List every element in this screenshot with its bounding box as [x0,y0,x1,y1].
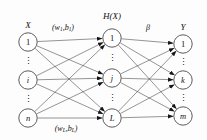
edge-hidden-output [119,51,177,111]
edge-hidden-output [120,85,174,114]
hidden-ellipsis-icon: ⋮ [108,53,117,63]
input-node-label: 1 [26,37,30,47]
output-layer-title: Y [180,22,186,32]
output-layer-nodes: 1km [174,35,192,125]
output-node-label: m [180,111,186,121]
input-node-label: n [26,113,30,123]
input-layer-nodes: 1in [19,33,37,127]
edges-hidden-to-output [118,39,176,118]
edge-input-hidden [35,48,105,111]
input-ellipsis-icon: ⋮ [24,94,33,104]
edge-hidden-output [122,78,174,79]
input-layer-title: X [24,20,31,30]
edge-input-hidden [38,38,103,41]
hidden-layer-nodes: 1jL [103,29,121,127]
edge-input-hidden [37,82,103,114]
output-node-label: 1 [181,39,185,49]
edges-input-to-hidden [35,38,105,118]
input-hidden-weight-last: (wL,bL) [55,124,78,133]
output-ellipsis-icon: ⋮ [179,93,188,103]
input-hidden-weight-first: (w1,b1) [52,23,74,32]
input-ellipsis-icon: ⋮ [24,56,33,66]
hidden-node-label: 1 [110,33,114,43]
parameter-annotations: (w1,b1)(wL,bL)β [52,23,150,133]
edge-hidden-output [122,39,174,43]
edge-hidden-output [122,116,174,117]
edge-input-hidden [37,46,103,74]
hidden-ellipsis-icon: ⋮ [108,93,117,103]
hidden-output-weight-beta: β [145,23,150,32]
edge-hidden-output [120,83,174,112]
elm-network-diagram: 1in 1jL 1km ⋮⋮⋮⋮⋮⋮ X H(X) Y (w1,b1)(wL,b… [0,0,207,140]
output-ellipsis-icon: ⋮ [179,57,188,67]
hidden-layer-title: H(X) [102,11,121,21]
network-svg: 1in 1jL 1km ⋮⋮⋮⋮⋮⋮ X H(X) Y (w1,b1)(wL,b… [0,0,207,140]
edge-input-hidden [35,45,105,112]
hidden-node-label: L [109,113,115,123]
edge-input-hidden [37,84,103,114]
output-node-label: k [181,75,185,85]
